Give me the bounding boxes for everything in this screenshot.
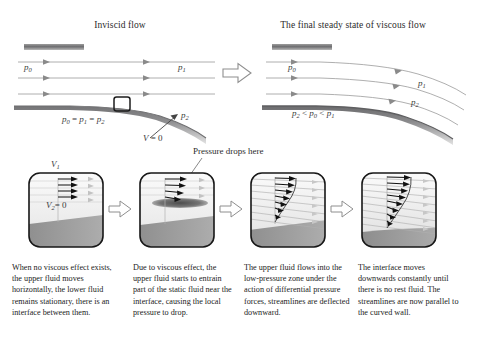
label-p0-left: p0 <box>24 62 32 72</box>
upper-wall-bar <box>24 44 84 50</box>
top-left-panel-title: Inviscid flow <box>55 20 185 30</box>
stage-arrow-3 <box>330 200 354 218</box>
label-p0-right: p0 <box>288 62 296 72</box>
arrowhead <box>143 91 150 97</box>
arrowhead <box>43 75 50 81</box>
inviscid-flow-diagram <box>10 40 225 145</box>
streamline-arrowheads <box>291 59 402 104</box>
stage-arrow-1 <box>108 200 132 218</box>
arrowhead <box>388 99 396 105</box>
arrowhead <box>143 59 150 65</box>
stage-caption-3: The upper fluid flows into the low-press… <box>244 262 350 318</box>
top-transition-arrow <box>222 62 252 84</box>
stage-panel-4 <box>361 172 437 248</box>
stage-panel-2 <box>139 172 215 248</box>
stage-arrow-2 <box>219 200 243 218</box>
arrowhead <box>143 75 150 81</box>
stage1-velocity-bottom-label: V2= 0 <box>46 200 67 210</box>
lower-fluid <box>361 228 437 248</box>
label-p2-left: p2 <box>181 110 189 120</box>
velocity-pointer-arrowhead <box>171 114 179 120</box>
arrowhead <box>43 91 50 97</box>
figure-root: Inviscid flow <box>0 0 479 348</box>
label-p1-right: p1 <box>418 78 426 88</box>
stage-caption-1: When no viscous effect exists, the upper… <box>12 262 116 318</box>
pressure-equation-left: p0 = p1 = p2 <box>62 114 104 124</box>
upper-wall-bar <box>272 44 332 50</box>
label-p2-right: p2 <box>411 97 419 107</box>
arrowhead <box>291 91 298 97</box>
pressure-drop-callout-text: Pressure drops here <box>193 146 263 156</box>
top-right-panel-title: The final steady state of viscous flow <box>258 20 448 30</box>
arrowhead <box>43 59 50 65</box>
velocity-zero-label: V = 0 <box>143 133 163 143</box>
stage1-velocity-top-label: V1 <box>51 159 60 169</box>
stage-caption-2: Due to viscous effect, the upper fluid s… <box>133 262 233 318</box>
stage-caption-4: The interface moves downwards constantly… <box>358 262 462 318</box>
curved-wall <box>14 106 206 144</box>
label-p1-left: p1 <box>178 62 186 72</box>
viscous-flow-diagram <box>258 40 473 145</box>
curved-wall <box>262 106 453 145</box>
pressure-inequality-right: p2 < p0 < p1 <box>292 108 334 118</box>
stage-panel-3 <box>250 172 326 248</box>
arrowhead <box>291 75 298 81</box>
stage-panel-1 <box>28 172 104 248</box>
